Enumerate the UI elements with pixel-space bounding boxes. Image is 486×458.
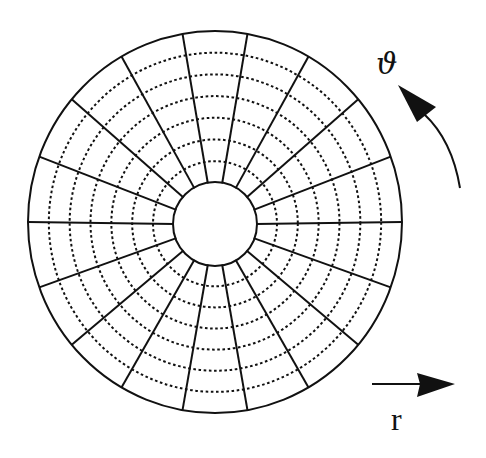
theta-arrowhead-icon: [398, 85, 436, 122]
theta-direction-arrow: [398, 85, 460, 188]
radial-line-11: [72, 250, 184, 344]
radial-line-5: [183, 34, 208, 184]
radial-line-4: [222, 34, 247, 184]
radial-line-14: [222, 265, 247, 411]
r-label: r: [391, 401, 402, 437]
polar-grid-diagram: ϑ r: [0, 0, 486, 458]
r-arrowhead-icon: [417, 373, 455, 397]
radial-line-10: [39, 238, 176, 287]
radial-grid-lines: [28, 34, 402, 410]
r-direction-arrow: [372, 373, 455, 397]
radial-line-0: [256, 222, 402, 224]
theta-arc: [424, 114, 460, 188]
radial-line-9: [28, 222, 174, 224]
radial-line-8: [39, 157, 176, 210]
inner-boundary-circle: [173, 182, 257, 266]
radial-line-16: [247, 250, 359, 344]
radial-line-13: [183, 265, 208, 411]
radial-line-17: [254, 238, 391, 287]
radial-line-3: [236, 57, 309, 189]
theta-label: ϑ: [376, 46, 397, 81]
